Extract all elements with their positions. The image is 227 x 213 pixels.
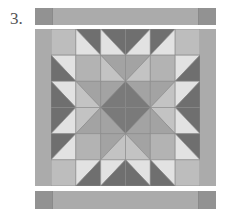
quilt-patch bbox=[175, 29, 200, 55]
top-border-strip bbox=[35, 8, 216, 25]
top-right-corner-square bbox=[198, 8, 216, 25]
star-grid bbox=[51, 29, 200, 186]
right-side-strip bbox=[199, 29, 216, 186]
quilt-patch bbox=[51, 160, 76, 186]
bottom-left-corner-square bbox=[35, 191, 53, 209]
step-label: 3. bbox=[10, 9, 23, 29]
left-side-strip bbox=[35, 29, 52, 186]
quilt-patch bbox=[175, 160, 200, 186]
bottom-right-corner-square bbox=[198, 191, 216, 209]
quilt-block bbox=[35, 29, 216, 186]
quilt-patch bbox=[150, 134, 175, 160]
star-pattern bbox=[51, 29, 200, 186]
top-left-corner-square bbox=[35, 8, 53, 25]
quilt-patch bbox=[76, 55, 101, 81]
quilt-patch bbox=[76, 134, 101, 160]
quilt-patch bbox=[150, 55, 175, 81]
bottom-border-strip bbox=[35, 191, 216, 209]
quilt-patch bbox=[51, 29, 76, 55]
